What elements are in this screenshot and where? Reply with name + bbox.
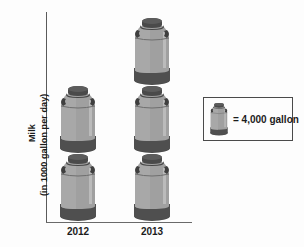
y-axis-title: Milk (in 1000 gallon per day) <box>0 60 44 200</box>
y-axis-title-line-1: Milk <box>27 124 37 142</box>
legend-milk-can-icon <box>208 102 230 136</box>
x-axis-label-2013: 2013 <box>122 226 182 237</box>
milk-can-icon <box>56 152 100 222</box>
x-axis-line <box>46 222 192 223</box>
pictograph-chart: Milk (in 1000 gallon per day) <box>0 0 304 247</box>
milk-can-icon <box>130 84 174 154</box>
milk-can-icon <box>130 16 174 86</box>
pictograph-column-2013 <box>130 18 174 222</box>
pictograph-column-2012 <box>56 86 100 222</box>
y-axis-title-line-2: (in 1000 gallon per day) <box>39 94 49 196</box>
legend-label: = 4,000 gallon <box>233 114 299 125</box>
legend: = 4,000 gallon <box>203 97 293 141</box>
x-axis-label-2012: 2012 <box>48 226 108 237</box>
milk-can-icon <box>56 84 100 154</box>
milk-can-icon <box>130 152 174 222</box>
